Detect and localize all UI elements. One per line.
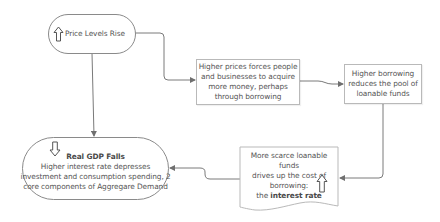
node-line: drives up the cost of xyxy=(252,171,326,181)
node-price-levels-rise[interactable]: Price Levels Rise xyxy=(48,14,136,54)
node-real-gdp-falls[interactable]: Real GDP Falls Higher interest rate depr… xyxy=(22,137,169,200)
node-line: core components of Aggregare Demand xyxy=(23,182,168,192)
hollow-up-arrow-icon xyxy=(53,26,64,42)
node-line: borrowing: xyxy=(270,181,308,191)
node-line: investment and consumption spending, 2 xyxy=(20,172,170,182)
node-line: Higher prices forces people xyxy=(199,62,298,72)
node-line: more money, perhaps xyxy=(208,82,288,92)
node-title: Real GDP Falls xyxy=(66,152,125,162)
node-line: Higher interest rate depresses xyxy=(41,162,150,172)
connector-price-to-prices xyxy=(135,33,195,80)
node-line: Higher borrowing xyxy=(352,69,414,79)
node-label: Price Levels Rise xyxy=(65,29,125,39)
node-line: through borrowing xyxy=(215,92,282,102)
interest-rate-emphasis: interest rate xyxy=(270,191,321,200)
connector-prices-to-borrowing xyxy=(300,81,343,84)
hollow-up-arrow-icon xyxy=(316,174,328,193)
node-higher-borrowing[interactable]: Higher borrowing reduces the pool of loa… xyxy=(344,64,422,104)
connector-scarce-to-gdp xyxy=(170,168,240,179)
hollow-down-arrow-icon xyxy=(49,141,61,157)
connector-price-to-gdp xyxy=(92,53,94,136)
node-line: and businesses to acquire xyxy=(201,72,295,82)
connector-borrowing-to-scarce xyxy=(340,104,383,178)
node-text-prefix: the xyxy=(256,191,270,200)
node-higher-prices[interactable]: Higher prices forces people and business… xyxy=(196,59,300,105)
node-line-interest: the interest rate xyxy=(256,191,321,201)
node-line: More scarce loanable funds xyxy=(240,151,338,171)
node-line: reduces the pool of xyxy=(348,79,417,89)
node-line: loanable funds xyxy=(356,89,409,99)
